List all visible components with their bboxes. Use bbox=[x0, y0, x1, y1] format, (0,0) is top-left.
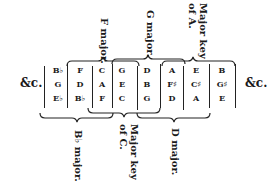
bottom-brace-d-major bbox=[137, 113, 210, 122]
label-major-key-of-c: Major key of C. bbox=[118, 124, 140, 180]
label-g-major: G major. bbox=[145, 10, 156, 57]
bottom-brace-bb-major bbox=[40, 113, 113, 122]
label-bb-major: B♭ major. bbox=[73, 130, 84, 182]
label-d-major: D major. bbox=[170, 128, 181, 175]
label-major-key-of-a: Major key of A. bbox=[187, 3, 209, 59]
bottom-brace-c-major bbox=[88, 108, 160, 117]
label-f-major: F major. bbox=[99, 18, 110, 64]
